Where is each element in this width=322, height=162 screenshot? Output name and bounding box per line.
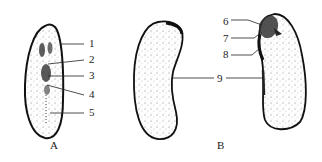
label-6: 6: [223, 15, 229, 27]
label-4: 4: [89, 88, 95, 100]
seed-diagram: 1 2 3 4 5 A 6 7 8 9 B: [0, 0, 322, 162]
label-2: 2: [89, 53, 95, 65]
label-7: 7: [223, 32, 229, 44]
label-3: 3: [89, 69, 95, 81]
panel-b-leaders: [173, 20, 264, 78]
label-8: 8: [223, 48, 229, 60]
panel-b-left-cotyledon: [134, 21, 183, 139]
label-1: 1: [89, 37, 95, 49]
panel-b-labels: 6 7 8 9 B: [217, 15, 229, 151]
caption-b: B: [217, 139, 224, 151]
label-9: 9: [217, 72, 223, 84]
label-5: 5: [89, 106, 95, 118]
panel-a-seed: [25, 25, 84, 139]
panel-b-right-cotyledon: [259, 14, 306, 129]
caption-a: A: [50, 139, 58, 151]
